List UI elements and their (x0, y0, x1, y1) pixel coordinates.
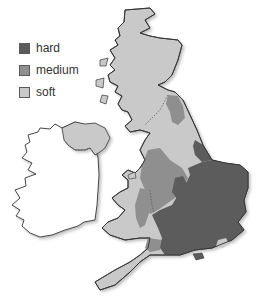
legend-item-hard: hard (19, 38, 79, 58)
swatch-medium (19, 65, 30, 76)
legend-item-medium: medium (19, 60, 79, 80)
legend-item-soft: soft (19, 82, 79, 102)
swatch-soft (19, 87, 30, 98)
legend-label-medium: medium (36, 63, 79, 77)
scottish-islands (96, 58, 108, 104)
legend-label-hard: hard (36, 41, 60, 55)
swatch-hard (19, 43, 30, 54)
legend: hard medium soft (19, 38, 79, 104)
medium-region-southwest (145, 238, 162, 252)
hard-region-isle-of-wight (193, 253, 204, 260)
legend-label-soft: soft (36, 85, 55, 99)
